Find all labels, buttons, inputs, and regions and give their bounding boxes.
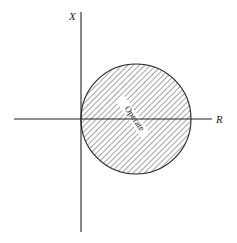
r-axis-label: R: [215, 113, 223, 125]
x-axis-label: X: [68, 10, 77, 22]
diagram-canvas: X R Operate: [0, 0, 237, 243]
